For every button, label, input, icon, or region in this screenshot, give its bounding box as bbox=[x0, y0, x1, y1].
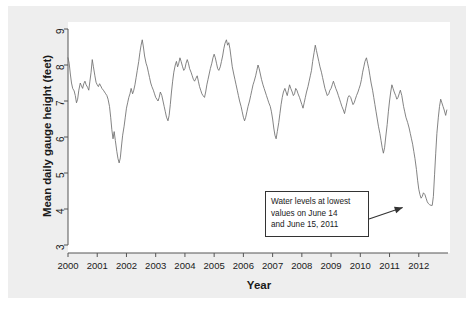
gauge-height-line bbox=[68, 40, 447, 206]
y-tick-label: 7 bbox=[55, 101, 66, 117]
y-tick-label: 4 bbox=[55, 209, 66, 225]
x-axis-ticks bbox=[68, 253, 419, 257]
y-tick-label: 3 bbox=[55, 245, 66, 261]
x-axis-title: Year bbox=[68, 279, 450, 291]
annotation-line-2: values on June 14 bbox=[271, 208, 363, 220]
y-tick-label: 9 bbox=[55, 29, 66, 45]
annotation-line-1: Water levels at lowest bbox=[271, 196, 363, 208]
y-tick-label: 6 bbox=[55, 137, 66, 153]
y-tick-label: 8 bbox=[55, 65, 66, 81]
annotation-arrow bbox=[369, 207, 403, 219]
y-tick-label: 5 bbox=[55, 173, 66, 189]
annotation-line-3: and June 15, 2011 bbox=[271, 219, 363, 231]
x-tick-label: 2012 bbox=[399, 260, 439, 271]
y-axis-title: Mean daily gauge height (feet) bbox=[41, 26, 53, 246]
lowest-values-annotation: Water levels at lowest values on June 14… bbox=[265, 191, 369, 237]
chart-page: Mean daily gauge height (feet) Year 9876… bbox=[0, 0, 474, 312]
